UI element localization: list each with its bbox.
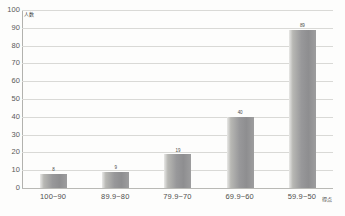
bar-value-label: 40 xyxy=(227,110,254,115)
x-axis-tick-labels: 100~9089.9~8079.9~7069.9~6059.9~50 xyxy=(22,192,333,206)
bar-value-label: 19 xyxy=(164,148,191,153)
y-axis-tick-label: 50 xyxy=(0,95,20,103)
unit-label-top: 人数 xyxy=(24,11,33,17)
bar[interactable] xyxy=(40,174,67,188)
bar[interactable] xyxy=(289,30,316,188)
bar-value-label: 9 xyxy=(102,165,129,170)
y-axis-tick-label: 30 xyxy=(0,131,20,139)
x-axis-tick-label: 69.9~60 xyxy=(209,192,271,202)
bar-chart: 1009080706050403020100 89194089 100~9089… xyxy=(0,0,345,216)
y-axis-tick-label: 90 xyxy=(0,24,20,32)
y-axis-tick-labels: 1009080706050403020100 xyxy=(0,0,20,216)
plot-area: 89194089 xyxy=(22,10,333,188)
y-axis-tick-label: 10 xyxy=(0,166,20,174)
bar[interactable] xyxy=(102,172,129,188)
x-axis-tick-label: 100~90 xyxy=(22,192,84,202)
bar-slot: 8 xyxy=(22,10,84,188)
y-axis-tick-label: 20 xyxy=(0,148,20,156)
x-axis-tick-label: 89.9~80 xyxy=(84,192,146,202)
bar-value-label: 8 xyxy=(40,167,67,172)
bar[interactable] xyxy=(227,117,254,188)
unit-label-bottom: 得点 xyxy=(322,196,331,202)
gridline xyxy=(22,188,333,189)
bar-slot: 9 xyxy=(84,10,146,188)
bar-value-label: 89 xyxy=(289,23,316,28)
bar-slot: 40 xyxy=(209,10,271,188)
x-axis-tick-label: 79.9~70 xyxy=(146,192,208,202)
y-axis-tick-label: 70 xyxy=(0,59,20,67)
bar-slot: 89 xyxy=(271,10,333,188)
bar[interactable] xyxy=(164,154,191,188)
y-axis-tick-label: 80 xyxy=(0,42,20,50)
y-axis-tick-label: 100 xyxy=(0,6,20,14)
y-axis-tick-label: 0 xyxy=(0,184,20,192)
y-axis-tick-label: 40 xyxy=(0,113,20,121)
bar-slot: 19 xyxy=(146,10,208,188)
y-axis-tick-label: 60 xyxy=(0,77,20,85)
